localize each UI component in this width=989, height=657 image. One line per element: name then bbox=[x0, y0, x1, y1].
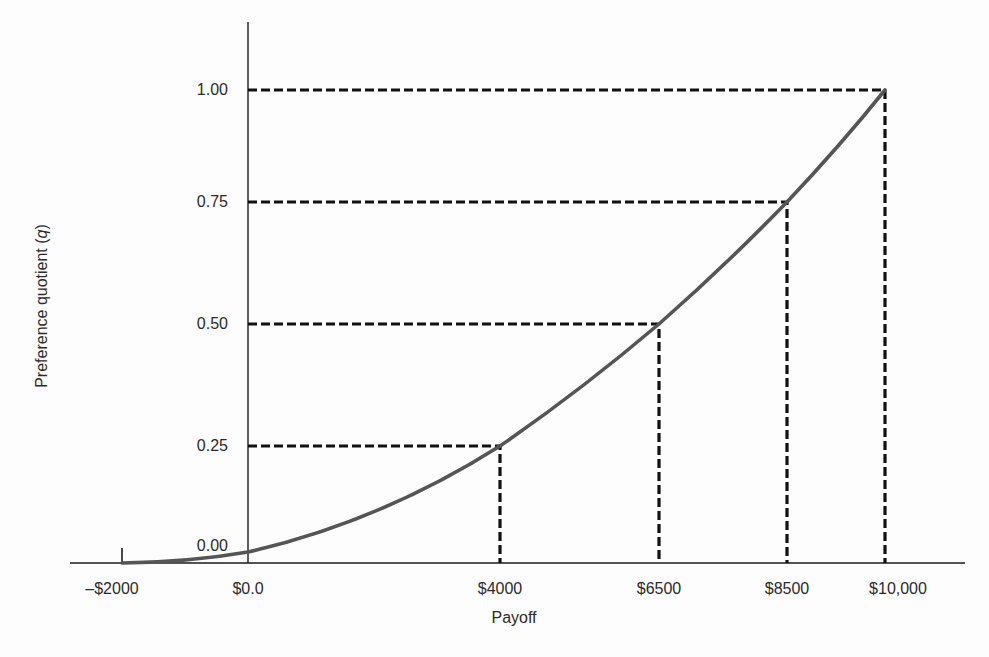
y-axis-title: Preference quotient (q) bbox=[33, 224, 51, 388]
x-tick-label: $8500 bbox=[765, 580, 810, 598]
x-tick-label: $4000 bbox=[478, 580, 523, 598]
preference-curve bbox=[122, 90, 885, 563]
chart-canvas bbox=[0, 0, 989, 657]
y-tick-label: 0.75 bbox=[168, 193, 228, 211]
ref-line-q050 bbox=[248, 324, 659, 563]
y-tick-label: 0.25 bbox=[168, 437, 228, 455]
x-tick-label: $0.0 bbox=[232, 580, 263, 598]
x-tick-label: $10,000 bbox=[869, 580, 927, 598]
reference-lines bbox=[248, 90, 885, 563]
y-tick-label: 0.00 bbox=[168, 537, 228, 555]
x-tick-label: –$2000 bbox=[85, 580, 138, 598]
ref-line-q100 bbox=[248, 90, 885, 563]
ref-line-q025 bbox=[248, 446, 500, 563]
x-tick-label: $6500 bbox=[637, 580, 682, 598]
x-axis-title: Payoff bbox=[491, 609, 536, 627]
ref-line-q075 bbox=[248, 202, 787, 563]
y-tick-label: 0.50 bbox=[168, 315, 228, 333]
y-tick-label: 1.00 bbox=[168, 81, 228, 99]
